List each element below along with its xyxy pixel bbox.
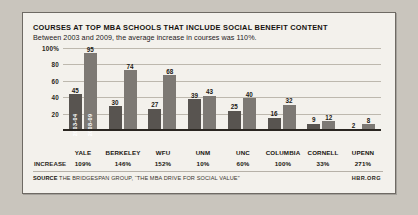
bar-value-label: 27 [151, 101, 158, 108]
bar-group: 2768 [143, 49, 183, 131]
category-label: YALE [63, 149, 103, 156]
category-label: UNC [223, 149, 263, 156]
category-label: BERKELEY [103, 149, 143, 156]
bar-value-label: 2 [352, 122, 356, 129]
category-label: CORNELL [303, 149, 343, 156]
increase-value: 10% [183, 160, 223, 167]
source-note: SOURCE THE BRIDGESPAN GROUP, “THE MBA DR… [33, 175, 240, 181]
category-label: COLUMBIA [263, 149, 303, 156]
increase-value: 33% [303, 160, 343, 167]
footer-divider [33, 171, 383, 172]
increase-value: 152% [143, 160, 183, 167]
bar-value-label: 39 [191, 92, 198, 99]
y-axis-tick-label: 80 [52, 61, 59, 68]
bar-value-label: 12 [325, 114, 332, 121]
bar-value-label: 68 [166, 68, 173, 75]
bar-value-label: 40 [246, 91, 253, 98]
label-rows: YALEBERKELEYWFUUNMUNCCOLUMBIACORNELLUPEN… [33, 147, 383, 169]
bar-groups: 452003-04952008-093074276839432540163291… [63, 49, 381, 131]
category-label: WFU [143, 149, 183, 156]
increase-cells: 109%146%152%10%60%100%33%271% [63, 160, 383, 167]
category-label: UPENN [343, 149, 383, 156]
footer: SOURCE THE BRIDGESPAN GROUP, “THE MBA DR… [33, 175, 383, 181]
bar: 40 [243, 98, 256, 131]
bar: 68 [163, 75, 176, 131]
infographic-card: COURSES AT TOP MBA SCHOOLS THAT INCLUDE … [22, 12, 396, 194]
bar-value-label: 32 [286, 97, 293, 104]
bar-value-label: 25 [231, 103, 238, 110]
y-axis-tick-label: 40 [52, 94, 59, 101]
increase-value: 271% [343, 160, 383, 167]
bar-group: 3943 [182, 49, 222, 131]
plot-area: 100%80604020 452003-04952008-09307427683… [33, 49, 383, 145]
increase-value: 100% [263, 160, 303, 167]
bar-value-label: 95 [87, 46, 94, 53]
bar-value-label: 30 [112, 99, 119, 106]
chart-title: COURSES AT TOP MBA SCHOOLS THAT INCLUDE … [33, 23, 385, 32]
bar-value-label: 9 [312, 116, 316, 123]
bar: 39 [188, 99, 201, 131]
bar: 27 [148, 109, 161, 131]
source-label: SOURCE [33, 175, 58, 181]
bar-group: 2540 [222, 49, 262, 131]
bar-group: 912 [302, 49, 342, 131]
x-axis-line [63, 129, 381, 131]
bar: 74 [124, 70, 137, 131]
bar: 32 [283, 105, 296, 131]
bar-group: 28 [341, 49, 381, 131]
category-row: YALEBERKELEYWFUUNMUNCCOLUMBIACORNELLUPEN… [33, 147, 383, 158]
increase-row: INCREASE 109%146%152%10%60%100%33%271% [33, 158, 383, 169]
bar-value-label: 8 [367, 117, 371, 124]
source-text: THE BRIDGESPAN GROUP, “THE MBA DRIVE FOR… [59, 175, 240, 181]
infographic-inner: COURSES AT TOP MBA SCHOOLS THAT INCLUDE … [33, 23, 385, 185]
series-legend-label: 2003-04 [72, 114, 78, 137]
bar-value-label: 74 [127, 63, 134, 70]
bar-value-label: 16 [271, 110, 278, 117]
bar-value-label: 43 [206, 88, 213, 95]
increase-value: 60% [223, 160, 263, 167]
bar: 30 [109, 106, 122, 131]
bar-value-label: 45 [72, 87, 79, 94]
series-legend-label: 2008-09 [87, 114, 93, 137]
bar: 25 [228, 111, 241, 132]
plot-canvas: 100%80604020 452003-04952008-09307427683… [63, 49, 381, 131]
y-axis-tick-label: 20 [52, 110, 59, 117]
bar-group: 1632 [262, 49, 302, 131]
increase-row-label: INCREASE [33, 160, 63, 167]
bar-group: 3074 [103, 49, 143, 131]
increase-value: 109% [63, 160, 103, 167]
chart-subtitle: Between 2003 and 2009, the average incre… [33, 33, 385, 43]
hbr-brand: HBR.ORG [352, 175, 383, 181]
bar: 452003-04 [69, 94, 82, 131]
y-axis-tick-label: 100% [42, 45, 59, 52]
bar: 952008-09 [84, 53, 97, 131]
bar-group: 452003-04952008-09 [63, 49, 103, 131]
y-axis-tick-label: 60 [52, 77, 59, 84]
increase-value: 146% [103, 160, 143, 167]
screenshot-root: COURSES AT TOP MBA SCHOOLS THAT INCLUDE … [0, 0, 418, 215]
category-cells: YALEBERKELEYWFUUNMUNCCOLUMBIACORNELLUPEN… [63, 149, 383, 156]
category-label: UNM [183, 149, 223, 156]
bar: 43 [203, 96, 216, 131]
